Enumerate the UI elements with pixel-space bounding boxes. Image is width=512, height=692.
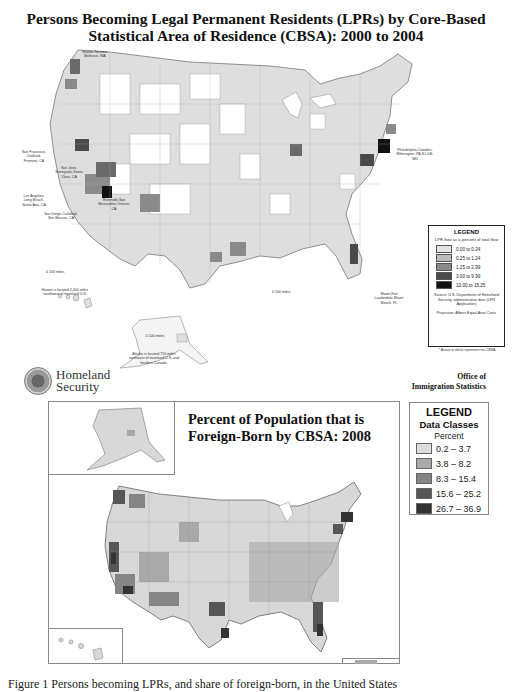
legend-label: 15.6 – 25.2 <box>436 489 481 499</box>
map2-title: Percent of Population that is Foreign-Bo… <box>188 411 393 445</box>
legend-swatch <box>436 263 452 271</box>
city-label-philadelphia: Philadelphia-Camden-Wilmington, PA-NJ-DE… <box>396 148 434 161</box>
city-label-riverside: Riverside-San Bernardino-Ontario, CA <box>96 198 132 211</box>
legend-projection: Projection: Albers Equal Area Conic <box>432 311 501 316</box>
scale-bar-alaska: 0 100 miles <box>140 334 170 338</box>
white-areas-note: * Areas in white represent no CBSA <box>430 348 504 352</box>
legend-class: 10.00 to 15.25 <box>436 281 501 289</box>
scale-bar-hawaii: 0 100 miles <box>46 270 76 274</box>
city-label-los-angeles: Los Angeles-Long Beach-Santa Ana, CA <box>20 194 48 207</box>
legend-class: 1.25 to 2.99 <box>436 263 501 271</box>
city-label-san-jose: San Jose-Sunnyvale-Santa Clara, CA <box>52 166 86 179</box>
legend-swatch <box>416 488 432 499</box>
figure-caption: Figure 1 Persons becoming LPRs, and shar… <box>8 677 508 692</box>
legend-swatch <box>416 443 432 454</box>
city-label-miami: Miami-Fort Lauderdale-Miami Beach, FL <box>374 292 404 305</box>
legend-swatch <box>416 458 432 469</box>
legend-subtitle: Data Classes <box>410 419 488 431</box>
legend-label: 0.00 to 0.24 <box>456 247 480 252</box>
legend-label: 1.25 to 2.99 <box>456 265 480 270</box>
legend-label: 26.7 – 36.9 <box>436 504 481 514</box>
office-name: Office of Immigration Statistics <box>380 372 486 391</box>
legend-title: LEGEND <box>432 229 501 235</box>
legend-class: 15.6 – 25.2 <box>416 486 488 501</box>
legend-class: 0.00 to 0.24 <box>436 245 501 253</box>
legend-class: 26.7 – 36.9 <box>416 501 488 516</box>
city-label-san-francisco: San Francisco-Oakland-Fremont, CA <box>20 150 48 163</box>
legend-label: 3.00 to 9.99 <box>456 274 480 279</box>
scale-bar-conus: 0 100 miles <box>272 290 312 294</box>
legend-source: Source: U.S. Department of Homeland Secu… <box>432 293 501 307</box>
legend-subtitle: LPR flow as a percent of total flow <box>432 237 501 242</box>
city-label-san-diego: San Diego-Carlsbad-San Marcos, CA <box>44 212 78 221</box>
legend-class: 0.25 to 1.24 <box>436 254 501 262</box>
legend-class: 3.8 – 8.2 <box>416 456 488 471</box>
office-line2: Immigration Statistics <box>380 382 486 392</box>
alaska-location-note: Alaska is located 750 miles northwest of… <box>126 352 182 365</box>
legend-swatch <box>436 272 452 280</box>
legend-swatch <box>416 473 432 484</box>
legend-swatch <box>436 254 452 262</box>
legend-swatch <box>416 503 432 514</box>
dhs-seal-icon <box>24 367 52 395</box>
legend-label: 8.3 – 15.4 <box>436 474 476 484</box>
dhs-logo: Homeland Security <box>24 366 114 396</box>
office-line1: Office of <box>380 372 486 382</box>
hawaii-inset-frame <box>48 628 123 664</box>
map1-title: Persons Becoming Legal Permanent Residen… <box>0 10 512 44</box>
legend-label: 0.2 – 3.7 <box>436 444 471 454</box>
legend-unit: Percent <box>410 431 488 441</box>
legend-swatch <box>436 281 452 289</box>
legend-class: 3.00 to 9.99 <box>436 272 501 280</box>
map1-legend: LEGEND LPR flow as a percent of total fl… <box>428 225 505 347</box>
legend-label: 0.25 to 1.24 <box>456 256 480 261</box>
legend-class: 0.2 – 3.7 <box>416 441 488 456</box>
map2-legend: LEGEND Data Classes Percent 0.2 – 3.7 3.… <box>409 402 489 515</box>
alaska-inset-frame <box>48 401 175 475</box>
puerto-rico-inset-frame <box>342 658 400 664</box>
legend-swatch <box>436 245 452 253</box>
agency-name-line2: Security <box>56 381 110 393</box>
legend-label: 10.00 to 15.25 <box>456 283 485 288</box>
hawaii-location-note: Hawaii is located 2,400 miles southwest … <box>40 288 90 297</box>
legend-label: 3.8 – 8.2 <box>436 459 471 469</box>
city-label-seattle: Seattle-Tacoma-Bellevue, WA <box>80 50 110 59</box>
legend-class: 8.3 – 15.4 <box>416 471 488 486</box>
legend-title: LEGEND <box>410 406 488 419</box>
